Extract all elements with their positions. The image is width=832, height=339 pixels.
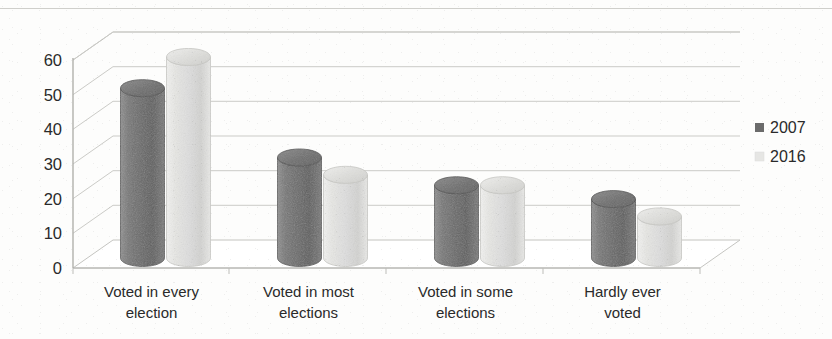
- y-tick-label: 50: [44, 86, 62, 104]
- y-tick-label: 60: [44, 51, 62, 69]
- bar-2016-1[interactable]: [167, 48, 211, 266]
- legend-label-2007: 2007: [770, 119, 806, 136]
- bar-chart: 60 50 40 30 20 10 0 Voted in everyelecti…: [0, 0, 832, 339]
- legend: 2007 2016: [755, 119, 806, 165]
- category-label-1: Voted in everyelection: [104, 283, 200, 321]
- chart-canvas: 60 50 40 30 20 10 0 Voted in everyelecti…: [0, 0, 832, 339]
- bar-2007-2[interactable]: [278, 149, 322, 267]
- legend-label-2016: 2016: [770, 148, 806, 165]
- category-label-3: Voted in someelections: [418, 283, 513, 321]
- y-tick-label: 0: [53, 259, 62, 277]
- bar-2007-3[interactable]: [435, 177, 479, 267]
- bar-2016-2[interactable]: [324, 166, 368, 266]
- bar-2016-4[interactable]: [638, 208, 682, 267]
- y-tick-labels: 60 50 40 30 20 10 0: [44, 51, 62, 277]
- bar-2016-3[interactable]: [481, 177, 525, 267]
- legend-swatch-2007: [755, 123, 764, 132]
- legend-swatch-2016: [755, 152, 764, 161]
- bar-2007-4[interactable]: [592, 191, 636, 267]
- x-tick-marks: [73, 268, 700, 274]
- category-label-2: Voted in mostelections: [263, 283, 355, 321]
- category-labels: Voted in everyelectionVoted in mostelect…: [104, 283, 661, 321]
- y-tick-label: 40: [44, 120, 62, 138]
- bars-layer: [121, 48, 682, 266]
- y-tick-label: 10: [44, 224, 62, 242]
- bar-2007-1[interactable]: [121, 80, 165, 267]
- y-tick-label: 30: [44, 155, 62, 173]
- category-label-4: Hardly evervoted: [584, 283, 661, 321]
- y-tick-label: 20: [44, 190, 62, 208]
